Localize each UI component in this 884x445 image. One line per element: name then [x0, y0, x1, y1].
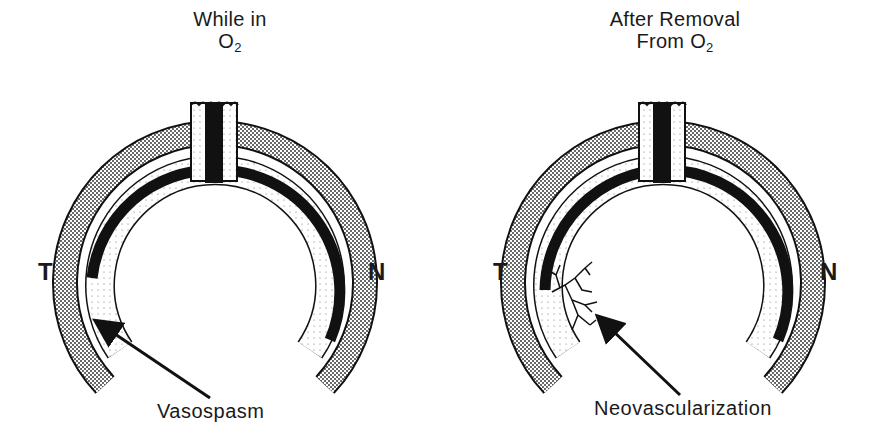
left-temporal-label: T — [38, 258, 53, 286]
left-title-line1: While in — [165, 8, 295, 30]
left-eye-diagram — [65, 103, 365, 399]
neovascularization-label: Neovascularization — [594, 397, 772, 420]
diagram-canvas — [0, 0, 884, 445]
right-temporal-label: T — [493, 258, 508, 286]
left-title-subscript: 2 — [234, 40, 242, 55]
right-eye-diagram — [513, 103, 813, 396]
left-panel-title: While in O2 — [165, 8, 295, 59]
neovascularization-arrow — [612, 330, 680, 395]
left-nasal-label: N — [368, 258, 385, 286]
right-panel-title: After Removal From O2 — [580, 8, 770, 59]
right-title-line2: From O2 — [580, 30, 770, 59]
left-title-base: O — [218, 30, 234, 52]
right-nasal-label: N — [820, 258, 837, 286]
vasospasm-arrow — [112, 332, 210, 398]
left-title-line2: O2 — [165, 30, 295, 59]
right-title-base: From O — [636, 30, 706, 52]
vasospasm-label: Vasospasm — [157, 400, 265, 423]
right-title-line1: After Removal — [580, 8, 770, 30]
right-title-subscript: 2 — [706, 40, 714, 55]
